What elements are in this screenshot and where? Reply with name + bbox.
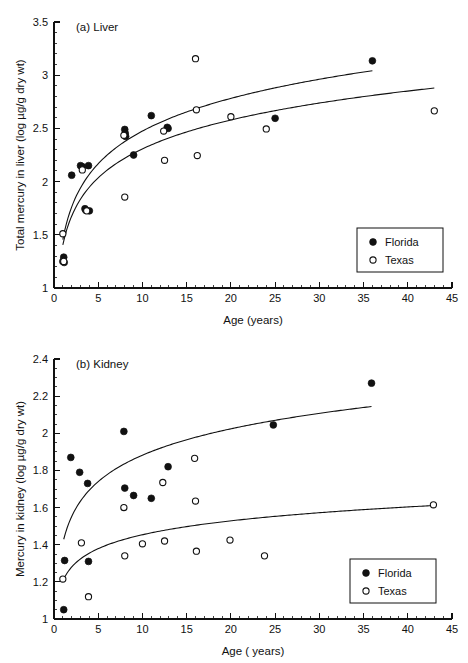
- x-tick-label: 40: [402, 623, 414, 635]
- fit-curves: [63, 407, 434, 581]
- y-axis-title: Mercury in kidney (log µg/g dry wt): [14, 401, 26, 577]
- data-point-texas: [84, 208, 90, 214]
- data-point-florida: [272, 115, 279, 122]
- x-tick-label: 30: [313, 623, 325, 635]
- data-point-florida: [84, 480, 91, 487]
- data-point-texas: [161, 538, 167, 544]
- data-point-florida: [130, 492, 137, 499]
- data-point-texas: [192, 455, 198, 461]
- x-tick-label: 0: [51, 623, 57, 635]
- x-tick-label: 35: [357, 623, 369, 635]
- y-axis-ticks: 11.522.533.5: [33, 16, 60, 294]
- data-point-texas: [139, 541, 145, 547]
- data-point-texas: [160, 479, 166, 485]
- legend-marker-florida: [363, 570, 370, 577]
- y-tick-label: 1.2: [33, 576, 48, 588]
- x-tick-label: 0: [51, 292, 57, 304]
- panel-title-kidney: (b) Kidney: [76, 358, 129, 370]
- x-tick-label: 10: [136, 623, 148, 635]
- y-tick-label: 2.4: [33, 353, 48, 365]
- data-point-florida: [368, 380, 375, 387]
- data-point-florida: [148, 495, 155, 502]
- fit-curves: [63, 71, 434, 245]
- y-axis-ticks: 11.21.41.61.822.22.4: [33, 353, 60, 625]
- y-tick-label: 2: [42, 427, 48, 439]
- y-tick-label: 2.5: [33, 122, 48, 134]
- chart-svg-liver: 05101520253035404511.522.533.5(a) LiverA…: [0, 0, 468, 331]
- data-point-texas: [227, 537, 233, 543]
- data-point-texas: [192, 56, 198, 62]
- data-point-texas: [122, 194, 128, 200]
- chart-panel-liver: 05101520253035404511.522.533.5(a) LiverA…: [0, 0, 468, 331]
- legend-marker-texas: [363, 588, 369, 594]
- data-point-texas: [161, 128, 167, 134]
- data-point-texas: [430, 502, 436, 508]
- data-point-florida: [60, 606, 67, 613]
- data-point-florida: [270, 422, 277, 429]
- legend-label-texas: Texas: [385, 254, 414, 266]
- data-point-texas: [194, 152, 200, 158]
- y-tick-label: 1.6: [33, 502, 48, 514]
- data-point-florida: [68, 172, 75, 179]
- data-point-texas: [193, 107, 199, 113]
- legend-marker-texas: [370, 257, 376, 263]
- data-point-texas: [61, 258, 67, 264]
- data-point-texas: [122, 553, 128, 559]
- x-axis-title: Age (years): [223, 314, 283, 326]
- y-tick-label: 1: [42, 282, 48, 294]
- fit-curve-florida: [64, 407, 372, 540]
- legend-liver: FloridaTexas: [357, 228, 443, 272]
- data-point-texas: [263, 126, 269, 132]
- legend-kidney: FloridaTexas: [350, 559, 436, 603]
- figure-root: 05101520253035404511.522.533.5(a) LiverA…: [0, 0, 468, 663]
- y-tick-label: 2: [42, 176, 48, 188]
- legend-marker-florida: [370, 239, 377, 246]
- data-point-texas: [431, 108, 437, 114]
- series-florida: [59, 57, 375, 265]
- chart-panel-kidney: 05101520253035404511.21.41.61.822.22.4(b…: [0, 331, 468, 663]
- y-tick-label: 2.2: [33, 390, 48, 402]
- x-tick-label: 45: [446, 623, 458, 635]
- y-tick-label: 1: [42, 613, 48, 625]
- data-point-texas: [60, 576, 66, 582]
- y-tick-label: 1.5: [33, 229, 48, 241]
- data-point-texas: [60, 231, 66, 237]
- data-point-texas: [78, 540, 84, 546]
- data-point-florida: [369, 57, 376, 64]
- legend-label-florida: Florida: [378, 567, 413, 579]
- legend-label-texas: Texas: [378, 585, 407, 597]
- data-point-texas: [228, 114, 234, 120]
- y-tick-label: 3.5: [33, 16, 48, 28]
- fit-curve-florida: [63, 71, 373, 240]
- data-point-florida: [148, 112, 155, 119]
- data-point-florida: [76, 469, 83, 476]
- x-axis-title: Age ( years): [222, 645, 285, 657]
- x-tick-label: 10: [136, 292, 148, 304]
- data-point-florida: [85, 558, 92, 565]
- y-axis-title: Total mercury in liver (log µg/g dry wt): [14, 59, 26, 250]
- x-tick-label: 25: [269, 292, 281, 304]
- x-axis-ticks: 051015202530354045: [51, 613, 458, 635]
- data-point-texas: [192, 498, 198, 504]
- data-point-texas: [161, 157, 167, 163]
- data-point-florida: [61, 557, 68, 564]
- data-point-texas: [121, 504, 127, 510]
- legend-label-florida: Florida: [385, 236, 420, 248]
- x-tick-label: 20: [225, 623, 237, 635]
- x-axis-ticks: 051015202530354045: [51, 282, 458, 304]
- data-point-texas: [193, 548, 199, 554]
- data-point-florida: [121, 485, 128, 492]
- data-point-texas: [121, 132, 127, 138]
- data-point-texas: [261, 553, 267, 559]
- x-tick-label: 20: [225, 292, 237, 304]
- data-point-florida: [130, 152, 137, 159]
- x-tick-label: 15: [181, 292, 193, 304]
- x-tick-label: 45: [446, 292, 458, 304]
- data-point-florida: [67, 454, 74, 461]
- data-point-florida: [165, 463, 172, 470]
- y-tick-label: 3: [42, 69, 48, 81]
- panel-title-liver: (a) Liver: [76, 21, 118, 33]
- data-point-florida: [85, 162, 92, 169]
- data-point-texas: [85, 594, 91, 600]
- series-florida: [60, 380, 375, 613]
